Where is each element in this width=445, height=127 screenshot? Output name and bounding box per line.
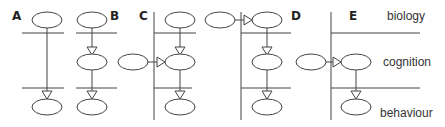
arrowhead-icon	[244, 15, 252, 25]
panel-d-label: D	[291, 9, 301, 23]
panel-c-label: C	[139, 9, 148, 23]
level-label-cognition: cognition	[383, 55, 431, 69]
behaviour-node	[341, 99, 371, 115]
behaviour-node	[32, 99, 62, 115]
panel-e-label: E	[349, 9, 357, 23]
arrowhead-icon	[175, 91, 185, 99]
level-label-biology: biology	[387, 9, 425, 23]
arrowhead-icon	[157, 57, 165, 67]
cognition-node	[165, 54, 195, 70]
panel-b: B	[76, 9, 119, 115]
arrowhead-icon	[351, 91, 361, 99]
causal-model-diagram: A B C D	[0, 0, 445, 127]
panel-c: C	[118, 9, 196, 120]
panel-a: A	[12, 9, 64, 115]
panel-d: D	[205, 9, 301, 120]
level-label-behaviour: behaviour	[380, 106, 433, 120]
biology-node	[77, 12, 107, 28]
arrowhead-icon	[87, 91, 97, 99]
biology-node	[32, 12, 62, 28]
environment-node	[118, 54, 148, 70]
cognition-node	[341, 54, 371, 70]
environment-node	[205, 12, 235, 28]
cognition-node	[77, 54, 107, 70]
behaviour-node	[165, 99, 195, 115]
behaviour-node	[77, 99, 107, 115]
arrowhead-icon	[42, 91, 52, 99]
arrowhead-icon	[262, 91, 272, 99]
panel-b-label: B	[110, 9, 119, 23]
biology-node	[165, 12, 195, 28]
behaviour-node	[252, 99, 282, 115]
cognition-node	[252, 54, 282, 70]
panel-a-label: A	[12, 9, 22, 23]
arrowhead-icon	[333, 57, 341, 67]
biology-node	[252, 12, 282, 28]
environment-node	[296, 54, 326, 70]
